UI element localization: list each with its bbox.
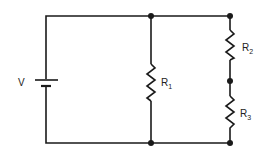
r1-label: R1 xyxy=(161,77,172,90)
source-label: V xyxy=(18,77,25,88)
circuit-diagram xyxy=(0,0,266,157)
r3-label: R3 xyxy=(240,108,251,121)
node-top-left xyxy=(148,13,154,19)
resistor-r3 xyxy=(226,96,234,132)
resistor-r1 xyxy=(147,64,155,101)
r2-label: R2 xyxy=(242,42,253,55)
node-top-right xyxy=(227,13,233,19)
resistor-r2 xyxy=(226,30,234,60)
bottom-wire xyxy=(46,87,230,143)
node-bottom-right xyxy=(227,140,233,146)
node-bottom-left xyxy=(148,140,154,146)
node-mid-right xyxy=(227,78,233,84)
top-wire xyxy=(46,16,230,79)
